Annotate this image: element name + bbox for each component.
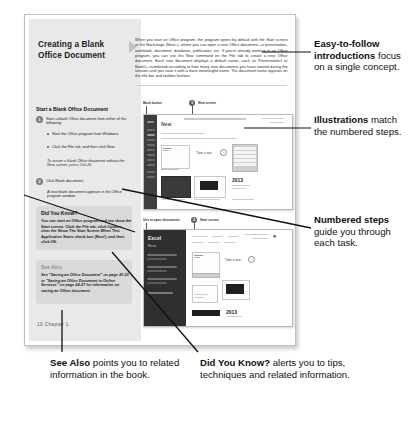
- account-avatar-icon: ●: [272, 234, 277, 239]
- tile-take-a-tour[interactable]: Take a tour: [224, 258, 242, 262]
- see-also-title: See Also: [41, 264, 127, 270]
- book-page: Creating a Blank Office Document When yo…: [24, 14, 296, 346]
- tile-mark: [163, 150, 169, 151]
- filter-line: [192, 242, 204, 243]
- figure-label-open-documents: Use to open documents: [143, 218, 180, 222]
- recent-file-item[interactable]: [147, 254, 177, 256]
- step-item: 2 Click Blank document.: [36, 178, 134, 182]
- tile-line: [232, 185, 250, 186]
- rail-back-button: [147, 121, 154, 123]
- bullet-text: Start the Office program from Windows.: [52, 131, 136, 136]
- did-you-know-title: Did You Know?: [41, 210, 127, 216]
- rail-app-title: Excel: [148, 235, 161, 241]
- intro-divider: [135, 85, 287, 86]
- filter-line: [224, 242, 236, 243]
- rail-item: [147, 149, 155, 151]
- figure-start-screen: Use to open documents 2 Start screen Exc…: [143, 218, 291, 328]
- bullet-dot-icon: [47, 146, 49, 148]
- rail-item: [147, 176, 155, 178]
- tile-line: [194, 297, 204, 298]
- callout-did-you-know: Did You Know? alerts you to tips, techni…: [200, 357, 360, 380]
- tile-mark: [194, 255, 203, 256]
- tile-mark: [163, 148, 172, 149]
- recent-file-path: [147, 258, 167, 260]
- steps-heading: Start a Blank Office Document: [36, 106, 136, 112]
- tile-caption: Blank document: [161, 168, 178, 171]
- callout-rest-text: guide you through each task.: [314, 226, 391, 249]
- callout-introductions: Easy-to-follow introductions focus on a …: [314, 38, 406, 73]
- figure-label-back-button: Back button: [143, 101, 162, 105]
- rail-item: [147, 139, 155, 141]
- bullet-dot-icon: [47, 133, 49, 135]
- account-line: [262, 118, 284, 119]
- recent-file-item[interactable]: [147, 278, 177, 280]
- figure-leader-line: [146, 106, 147, 114]
- tile-art: [200, 181, 218, 190]
- recent-file-path: [147, 270, 167, 272]
- callout-see-also: See Also points you to related informati…: [50, 357, 200, 380]
- search-bar: [184, 118, 246, 120]
- bullet-text: Click the File tab, and then click New.: [52, 144, 136, 149]
- see-also-body: See "Saving an Office Document" on page …: [41, 272, 132, 294]
- grid-row: [233, 162, 257, 167]
- tile-line: [226, 316, 242, 317]
- rail-item: [147, 159, 155, 161]
- step-text: Click Blank document.: [46, 178, 137, 183]
- step-number-badge: 2: [36, 178, 43, 185]
- rail-item: [147, 171, 155, 173]
- screenshot-office-start-screen: Excel Recent ● Take a tour →: [143, 229, 293, 327]
- callout-numbered-steps: Numbered steps guide you through each ta…: [314, 214, 406, 249]
- callout-bold-text: Easy-to-follow introductions: [314, 38, 380, 61]
- screenshot-office-new-screen: New Blank document Take a tour → 2013: [143, 114, 293, 210]
- tile-dark-template[interactable]: [161, 176, 191, 198]
- screen-heading-new: New: [161, 121, 171, 127]
- search-line: [192, 236, 208, 237]
- filter-line: [208, 242, 220, 243]
- step-bullet: Start the Office program from Windows.: [47, 131, 133, 135]
- step-item: 1 Start a blank Office document from eit…: [36, 116, 134, 125]
- open-other-workbooks-link[interactable]: [147, 292, 173, 294]
- step-text: Start a blank Office document from eithe…: [46, 116, 137, 127]
- page-footer: 10 Chapter 1: [37, 322, 69, 327]
- tile-mark: [194, 257, 200, 258]
- tile-caption-line: [194, 199, 220, 200]
- intro-paragraph: When you start an Office program, the pr…: [135, 38, 288, 80]
- rail-item: [147, 129, 155, 131]
- see-also-box: See Also See "Saving an Office Document"…: [36, 260, 132, 304]
- tile-art: [226, 284, 244, 294]
- rail-section-label: Recent: [148, 245, 156, 248]
- rail-item: [147, 154, 155, 156]
- tile-caption-band: [192, 273, 220, 278]
- account-line: [252, 238, 268, 239]
- account-line: [244, 234, 268, 235]
- tile-art-dark: [192, 310, 220, 316]
- account-line: [270, 122, 284, 123]
- did-you-know-body: You can start an Office program and not …: [41, 218, 132, 245]
- callout-bold-text: Numbered steps: [314, 214, 389, 225]
- callout-illustrations: Illustrations match the numbered steps.: [314, 114, 406, 137]
- rail-item: [147, 134, 155, 136]
- tile-take-a-tour[interactable]: Take a tour: [194, 151, 214, 155]
- page-title: Creating a Blank Office Document: [38, 40, 124, 61]
- tile-line: [232, 188, 246, 189]
- figure-label-start-screen: Start screen: [200, 218, 219, 222]
- callout-bold-text: Illustrations: [314, 114, 368, 125]
- did-you-know-box: Did You Know? You can start an Office pr…: [36, 206, 132, 250]
- rail-item: [147, 144, 155, 146]
- timesaver-note: To create a blank Office document withou…: [47, 158, 131, 169]
- recent-file-path: [147, 282, 167, 284]
- figure-label-new-screen: New screen: [198, 101, 216, 105]
- tile-caption-line: [161, 199, 185, 200]
- tile-line: [194, 294, 208, 295]
- search-line: [228, 236, 238, 237]
- figure-new-screen: Back button 1 New screen New: [143, 101, 291, 211]
- tile-year: 2013: [232, 177, 243, 183]
- arrow-circle-icon: →: [248, 256, 255, 263]
- tile-year: 2013: [226, 309, 237, 315]
- search-line: [212, 236, 222, 237]
- step-number-badge: 1: [36, 116, 43, 123]
- tile-caption-line: [232, 199, 254, 200]
- arrow-circle-icon: →: [220, 149, 227, 156]
- recent-file-item[interactable]: [147, 266, 177, 268]
- callout-bold-text: See Also: [50, 357, 90, 368]
